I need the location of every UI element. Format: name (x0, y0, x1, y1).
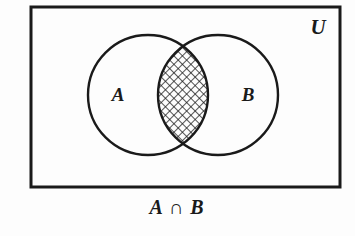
set-label-b: B (241, 84, 255, 105)
set-label-a: A (111, 84, 125, 105)
figure-caption: A ∩ B (148, 196, 205, 218)
venn-diagram-figure: A B U A ∩ B (0, 0, 355, 236)
universal-set-label: U (310, 15, 327, 39)
venn-diagram-canvas: A B U A ∩ B (0, 0, 355, 236)
